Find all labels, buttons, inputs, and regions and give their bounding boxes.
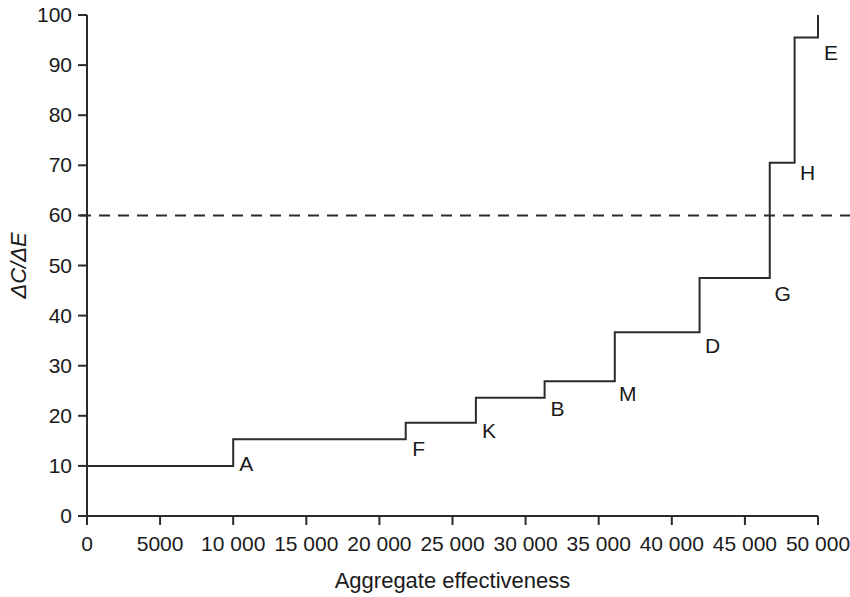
- y-tick-label: 20: [49, 404, 72, 427]
- data-point-label-h: H: [800, 161, 815, 184]
- x-tick-label: 50 000: [786, 532, 850, 555]
- x-tick-label: 5000: [137, 532, 184, 555]
- x-axis-ticks: 0500010 00015 00020 00025 00030 00035 00…: [81, 516, 850, 555]
- x-tick-label: 15 000: [274, 532, 338, 555]
- data-point-labels: AFKBMDGHE: [239, 41, 838, 475]
- y-axis-title: ΔC/ΔE: [6, 232, 31, 300]
- x-tick-label: 25 000: [420, 532, 484, 555]
- x-tick-label: 20 000: [347, 532, 411, 555]
- data-point-label-g: G: [775, 282, 791, 305]
- data-point-label-b: B: [551, 397, 565, 420]
- data-point-label-k: K: [482, 419, 496, 442]
- x-axis-title: Aggregate effectiveness: [335, 568, 571, 593]
- data-point-label-m: M: [619, 382, 637, 405]
- y-tick-label: 40: [49, 304, 72, 327]
- data-point-label-d: D: [705, 334, 720, 357]
- step-curve-path: [87, 15, 818, 466]
- y-tick-label: 0: [60, 504, 72, 527]
- data-point-label-a: A: [239, 452, 253, 475]
- x-tick-label: 30 000: [493, 532, 557, 555]
- y-axis-ticks: 0102030405060708090100: [37, 3, 87, 527]
- data-point-label-e: E: [824, 41, 838, 64]
- y-tick-label: 60: [49, 203, 72, 226]
- y-tick-label: 90: [49, 53, 72, 76]
- axis-lines: [87, 15, 818, 516]
- y-tick-label: 100: [37, 3, 72, 26]
- x-tick-label: 40 000: [640, 532, 704, 555]
- y-tick-label: 80: [49, 103, 72, 126]
- y-tick-label: 10: [49, 454, 72, 477]
- chart-figure: 0102030405060708090100 0500010 00015 000…: [0, 0, 850, 597]
- x-tick-label: 0: [81, 532, 93, 555]
- x-tick-label: 10 000: [201, 532, 265, 555]
- y-tick-label: 30: [49, 354, 72, 377]
- axes-group: [87, 15, 818, 516]
- y-tick-label: 50: [49, 254, 72, 277]
- x-tick-label: 35 000: [567, 532, 631, 555]
- step-chart: 0102030405060708090100 0500010 00015 000…: [0, 0, 850, 597]
- step-curve-group: [87, 15, 818, 466]
- x-tick-label: 45 000: [713, 532, 777, 555]
- data-point-label-f: F: [412, 437, 425, 460]
- y-tick-label: 70: [49, 153, 72, 176]
